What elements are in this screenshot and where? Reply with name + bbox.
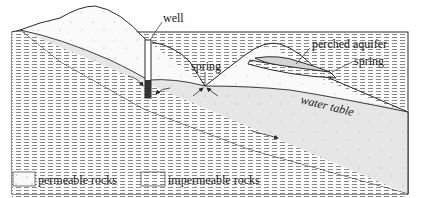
legend-label-permeable: permeable rocks [38, 173, 117, 187]
label-spring-right: spring [354, 54, 384, 68]
groundwater-diagram: well spring perched aquifer spring water… [0, 0, 424, 198]
legend-item-permeable: permeable rocks [13, 172, 117, 187]
label-well: well [163, 11, 184, 25]
well-water [145, 80, 151, 98]
label-spring-left: spring [191, 59, 221, 73]
legend-item-impermeable: impermeable rocks [141, 172, 260, 187]
legend-label-impermeable: impermeable rocks [168, 173, 260, 187]
impermeable-swatch [141, 172, 165, 186]
label-perched-aquifer: perched aquifer [312, 37, 387, 51]
